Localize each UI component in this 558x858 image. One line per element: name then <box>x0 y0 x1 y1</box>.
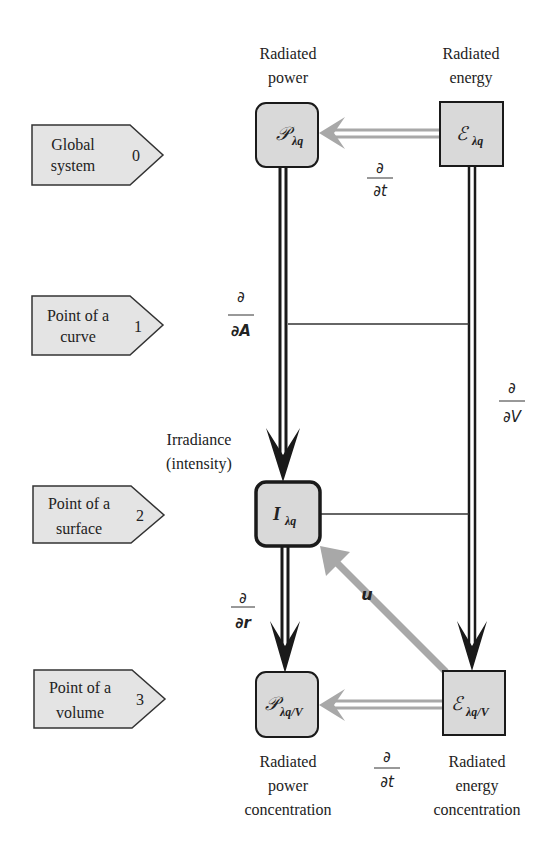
svg-text:∂t: ∂t <box>373 182 388 200</box>
operator-d-dV: ∂ ∂V <box>499 379 525 426</box>
node-radiated-energy: ℰ λq <box>440 102 503 166</box>
svg-text:energy: energy <box>449 69 492 87</box>
level-index: 1 <box>134 318 142 335</box>
svg-text:ℰ: ℰ <box>456 123 470 144</box>
svg-text:∂V: ∂V <box>503 408 523 426</box>
svg-text:λq: λq <box>471 134 483 148</box>
svg-text:λq/V: λq/V <box>279 705 304 719</box>
svg-text:power: power <box>268 69 309 87</box>
level-label-text: Point of a <box>47 307 109 324</box>
svg-text:λq/V: λq/V <box>465 705 490 719</box>
svg-text:∂r: ∂r <box>235 614 252 632</box>
svg-text:∂: ∂ <box>239 589 247 607</box>
level-label-3: Point of a volume 3 <box>34 670 165 728</box>
svg-text:(intensity): (intensity) <box>166 455 232 473</box>
svg-text:ℰ: ℰ <box>451 693 465 714</box>
svg-text:∂: ∂ <box>508 379 516 397</box>
node-energy-concentration: ℰ λq/V <box>443 671 505 735</box>
level-index: 0 <box>132 147 140 164</box>
level-label-text: curve <box>60 328 96 345</box>
arrow-ev-to-pv <box>319 689 443 721</box>
arrow-u-ev-to-i <box>320 546 446 672</box>
level-index: 3 <box>136 691 144 708</box>
svg-text:Radiated: Radiated <box>443 45 500 62</box>
level-index: 2 <box>136 507 144 524</box>
node-radiated-power: 𝒫 λq <box>256 103 318 167</box>
svg-text:λq: λq <box>291 134 303 148</box>
level-label-0: Global system 0 <box>32 125 163 185</box>
level-label-2: Point of a surface 2 <box>33 486 164 543</box>
svg-text:Irradiance: Irradiance <box>167 431 232 448</box>
operator-d-dA: ∂ ∂A <box>228 288 254 340</box>
operator-d-dt-bottom: ∂ ∂t <box>374 748 400 791</box>
svg-text:Radiated: Radiated <box>260 753 317 770</box>
svg-text:concentration: concentration <box>244 801 331 818</box>
arrow-i-to-pv <box>270 546 300 673</box>
svg-text:concentration: concentration <box>433 801 520 818</box>
svg-text:power: power <box>268 777 309 795</box>
svg-text:∂: ∂ <box>383 748 391 766</box>
operator-u-velocity: u <box>361 585 372 604</box>
footer-energy-concentration: Radiated energy concentration <box>433 753 520 818</box>
header-radiated-power: Radiated power <box>260 45 317 87</box>
svg-text:λq: λq <box>284 514 296 528</box>
footer-power-concentration: Radiated power concentration <box>244 753 331 818</box>
level-label-text: volume <box>56 704 104 721</box>
level-label-1: Point of a curve 1 <box>32 296 163 355</box>
arrow-e-to-p <box>319 117 440 149</box>
node-irradiance: I λq <box>256 482 320 546</box>
svg-text:∂A: ∂A <box>231 322 251 340</box>
svg-text:energy: energy <box>455 777 498 795</box>
level-label-text: system <box>51 157 96 175</box>
diagram-canvas: Global system 0 Point of a curve 1 Point… <box>0 0 558 858</box>
level-label-text: Global <box>51 136 95 153</box>
header-radiated-energy: Radiated energy <box>443 45 500 87</box>
svg-text:I: I <box>272 503 281 524</box>
header-irradiance: Irradiance (intensity) <box>166 431 232 473</box>
level-label-text: surface <box>56 520 102 537</box>
node-power-concentration: 𝒫 λq/V <box>256 672 318 737</box>
svg-text:∂: ∂ <box>376 159 384 177</box>
level-label-text: Point of a <box>48 495 110 512</box>
operator-d-dr: ∂ ∂r <box>231 589 255 632</box>
svg-text:∂: ∂ <box>237 288 245 306</box>
level-label-text: Point of a <box>49 679 111 696</box>
operator-d-dt-top: ∂ ∂t <box>367 159 393 200</box>
arrow-e-to-ev <box>457 167 487 671</box>
svg-text:Radiated: Radiated <box>260 45 317 62</box>
svg-text:Radiated: Radiated <box>449 753 506 770</box>
svg-text:∂t: ∂t <box>380 773 395 791</box>
